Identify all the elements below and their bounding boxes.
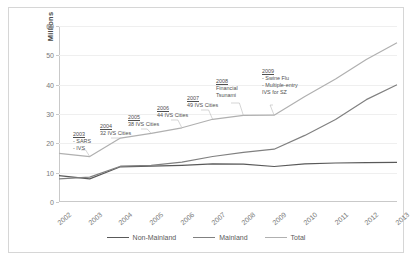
annotation-year: 2004 [100, 123, 131, 130]
annotation-line: 32 IVS Cities [100, 130, 131, 137]
x-tick-label: 2008 [240, 211, 256, 226]
legend-swatch [107, 237, 129, 238]
y-tick-label: 30 [46, 111, 54, 118]
x-tick-label: 2012 [363, 211, 379, 226]
series-line-total [59, 43, 397, 157]
x-tick-label: 2011 [333, 211, 349, 226]
annotation-2003: 2003- SARS- IVS [73, 131, 91, 152]
annotation-year: 2007 [187, 95, 218, 102]
legend-label: Non-Mainland [133, 234, 177, 241]
x-tick-label: 2009 [271, 211, 287, 226]
y-tick-label: 20 [46, 140, 54, 147]
annotation-line: - Swine Flu [262, 75, 298, 82]
annotation-line: Financial [216, 85, 238, 92]
annotation-year: 2005 [128, 114, 159, 121]
annotation-leader-line [270, 105, 274, 115]
legend-item-total[interactable]: Total [265, 234, 306, 241]
annotation-leader-line [171, 120, 182, 128]
x-tick-label: 2013 [394, 211, 410, 226]
x-tick-label: 2002 [56, 211, 72, 226]
x-tick-label: 2004 [118, 211, 134, 226]
y-tick-label: 60 [46, 23, 54, 30]
annotation-line: 38 IVS Cities [128, 121, 159, 128]
legend-label: Mainland [219, 234, 247, 241]
chart-container: Millions 0102030405060 20022003200420052… [8, 7, 404, 253]
annotation-line: Tsunami [216, 92, 238, 99]
legend-label: Total [291, 234, 306, 241]
x-tick-label: 2007 [210, 211, 226, 226]
annotation-line: 49 IVS Cities [187, 102, 218, 109]
series-lines [59, 26, 397, 202]
annotation-line: IVS for SZ [262, 89, 298, 96]
annotation-line: - SARS [73, 138, 91, 145]
annotation-2006: 200644 IVS Cities [157, 105, 188, 119]
annotation-2009: 2009- Swine Flu- Multiple-entryIVS for S… [262, 68, 298, 97]
annotation-year: 2006 [157, 105, 188, 112]
y-tick-label: 0 [50, 199, 54, 206]
y-tick-label: 50 [46, 52, 54, 59]
annotation-line: - Multiple-entry [262, 82, 298, 89]
legend-swatch [193, 237, 215, 238]
annotation-2004: 200432 IVS Cities [100, 123, 131, 137]
legend-item-non-mainland[interactable]: Non-Mainland [107, 234, 177, 241]
x-tick-label: 2003 [87, 211, 103, 226]
annotation-line: - IVS [73, 145, 91, 152]
annotation-year: 2003 [73, 131, 91, 138]
annotation-line: 44 IVS Cities [157, 112, 188, 119]
plot-area: 0102030405060 20022003200420052006200720… [59, 26, 397, 202]
annotation-2007: 200749 IVS Cities [187, 95, 218, 109]
x-tick-label: 2010 [302, 211, 318, 226]
annotation-leader-line [141, 129, 151, 133]
y-tick-label: 10 [46, 169, 54, 176]
x-tick-label: 2005 [148, 211, 164, 226]
legend-item-mainland[interactable]: Mainland [193, 234, 247, 241]
annotation-2008: 2008FinancialTsunami [216, 78, 238, 99]
annotation-year: 2008 [216, 78, 238, 85]
legend-swatch [265, 237, 287, 238]
x-tick-label: 2006 [179, 211, 195, 226]
y-tick-mark [56, 202, 59, 203]
annotation-year: 2009 [262, 68, 298, 75]
y-tick-label: 40 [46, 81, 54, 88]
annotation-leader-line [201, 110, 213, 119]
chart-legend: Non-MainlandMainlandTotal [9, 234, 403, 241]
annotation-leader-line [231, 103, 243, 116]
annotation-2005: 200538 IVS Cities [128, 114, 159, 128]
